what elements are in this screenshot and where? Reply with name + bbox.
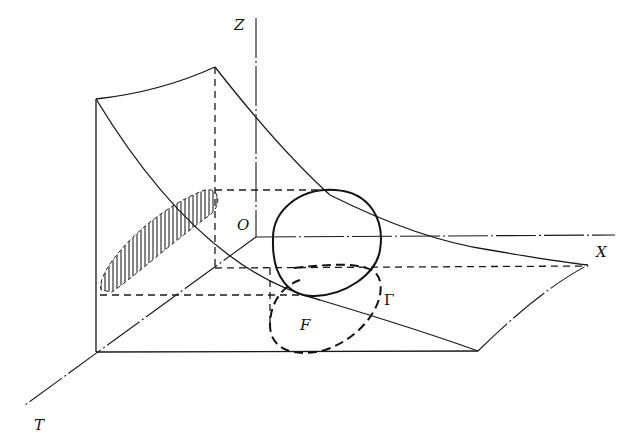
x-axis [256, 235, 615, 237]
surface-curve [273, 190, 381, 296]
diagram-figure: Z X T O Γ F [0, 0, 624, 441]
x-axis-label: X [595, 243, 608, 261]
origin-label: O [237, 216, 249, 234]
t-axis-label: T [34, 416, 45, 434]
projection-lines [100, 67, 588, 325]
z-axis-label: Z [233, 16, 245, 34]
gamma-label: Γ [384, 291, 394, 309]
region-label: F [299, 316, 311, 334]
hatched-projection [101, 190, 218, 292]
